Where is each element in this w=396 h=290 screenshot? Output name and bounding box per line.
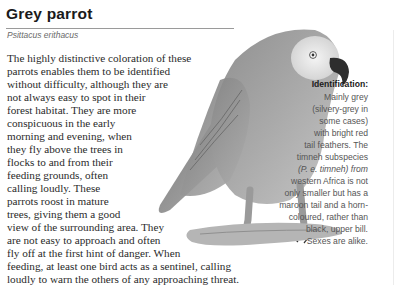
identification-line: (silvery-grey in	[312, 105, 368, 114]
body-line: not always easy to spot in their	[7, 92, 146, 103]
body-line: are not easy to approach and often	[7, 235, 160, 246]
body-line: feeding grounds, often	[7, 170, 108, 181]
identification-line: some cases)	[319, 117, 368, 126]
body-line: parrots roost in mature	[7, 196, 109, 207]
body-line: parrots enables them to be identified	[7, 66, 170, 77]
body-line: fly off at the first hint of danger. Whe…	[7, 248, 180, 259]
page-title: Grey parrot	[6, 5, 93, 23]
body-line: flocks to and from their	[7, 157, 113, 168]
identification-heading: Identification:	[312, 80, 368, 89]
identification-line: Sexes are alike.	[307, 237, 368, 246]
body-line: calling loudly. These	[7, 183, 100, 194]
body-line: morning and evening, when	[7, 131, 132, 142]
identification-line: Mainly grey	[324, 93, 368, 102]
identification-line: tail feathers. The	[304, 141, 368, 150]
body-line: view of the surrounding area. They	[7, 222, 164, 233]
body-line: trees, giving them a good	[7, 209, 120, 220]
book-page: Grey parrot Psittacus erithacus	[0, 0, 396, 290]
body-line: without difficulty, although they are	[7, 79, 168, 90]
identification-line: maroon tail and a horn-	[279, 201, 368, 210]
identification-line: black, upper bill.	[306, 225, 368, 234]
body-line: they fly above the trees in	[7, 144, 123, 155]
identification-line: coloured, rather than	[289, 213, 368, 222]
identification-line: only smaller but has a	[284, 189, 368, 198]
page-gutter-line	[393, 30, 394, 285]
identification-line: timneh subspecies	[297, 153, 368, 162]
body-line: forest habitat. They are more	[7, 105, 136, 116]
identification-line: (P. e. timneh) from	[298, 165, 368, 174]
body-line: feeding, at least one bird acts as a sen…	[7, 261, 231, 272]
identification-line: with bright red	[314, 129, 368, 138]
body-line: loudly to warn the others of any approac…	[7, 274, 239, 285]
body-line: conspicuous in the early	[7, 118, 115, 129]
body-line: The highly distinctive coloration of the…	[7, 53, 191, 64]
scientific-name: Psittacus erithacus	[7, 30, 78, 40]
identification-line: western Africa is not	[291, 177, 368, 186]
